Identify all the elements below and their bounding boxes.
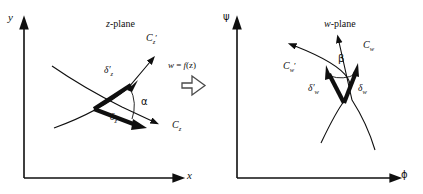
cw-sub: w (370, 45, 374, 52)
curve-cz-primed (54, 62, 150, 128)
cz-primed-mark: ′ (155, 33, 157, 43)
x-axis-label: x (187, 170, 192, 181)
cw-primed-mark: ′ (294, 61, 296, 71)
delta-z-primed-label: δ′z (104, 66, 113, 77)
angle-label-alpha: α (141, 97, 148, 107)
curve-label-cz-primed: Cz′ (146, 33, 157, 46)
z-plane-panel: z-plane y x Cz′ Cz δ′z δz α (0, 0, 212, 194)
cz-primed-c: C (146, 32, 153, 43)
w-plane-panel: w-plane ψ ϕ Cw Cw′ δ′w δw β (211, 0, 423, 194)
curve-label-cw: Cw (363, 40, 374, 53)
cz-sub: z (179, 125, 182, 132)
mapping-equation: w = f(z) (168, 61, 196, 70)
curve-label-cz: Cz (172, 120, 181, 133)
z-plane-title: z-plane (106, 19, 135, 29)
psi-axis-label: ψ (223, 12, 230, 22)
conformal-mapping-figure: z-plane y x Cz′ Cz δ′z δz α w = f(z) (0, 0, 423, 194)
delta-w-label: δw (358, 84, 367, 95)
w-plane-title-symbol: w (324, 18, 331, 29)
delta-z-sub: z (114, 117, 117, 124)
w-plane-title-text: -plane (331, 18, 356, 29)
cw-primed-c: C (283, 60, 290, 71)
angle-label-beta: β (338, 54, 344, 64)
mapping-arg: (z) (186, 60, 196, 70)
curve-cw (339, 42, 375, 150)
cw-c: C (363, 39, 370, 50)
w-plane-graphics (211, 0, 423, 194)
z-plane-graphics (0, 0, 212, 194)
phi-axis-label: ϕ (401, 170, 408, 180)
delta-z-label: δz (110, 113, 117, 124)
curve-label-cw-primed: Cw′ (283, 61, 296, 74)
delta-w-sub: w (362, 88, 366, 95)
y-axis-label: y (8, 12, 13, 23)
delta-w-primed-sub: w (315, 88, 319, 95)
angle-arc-alpha (130, 88, 134, 119)
vector-delta-z (94, 109, 147, 130)
w-plane-title: w-plane (324, 19, 356, 29)
z-plane-title-text: -plane (110, 18, 135, 29)
cz-c: C (172, 119, 179, 130)
mapping-equals: = (174, 60, 184, 70)
delta-w-primed-label: δ′w (308, 84, 319, 95)
delta-z-primed-sub: z (111, 70, 114, 77)
